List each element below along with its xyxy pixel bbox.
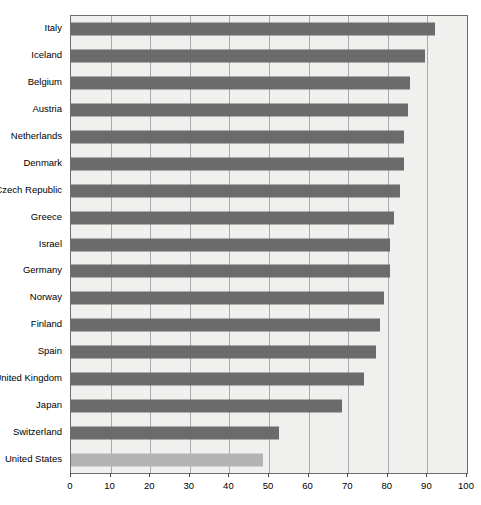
category-label: Iceland	[0, 50, 62, 60]
bar	[71, 265, 390, 278]
tick-label-100: 100	[446, 480, 481, 491]
category-label: United States	[0, 454, 62, 464]
value-axis: 0102030405060708090100	[70, 473, 468, 503]
category-label: Austria	[0, 104, 62, 114]
bar	[71, 50, 425, 63]
category-label: Netherlands	[0, 131, 62, 141]
category-label: United Kingdom	[0, 373, 62, 383]
bar	[71, 77, 410, 90]
bar	[71, 426, 279, 439]
bar	[71, 211, 394, 224]
tick-label-10: 10	[90, 480, 130, 491]
tick-mark-70	[347, 473, 348, 477]
bar	[71, 372, 364, 385]
bar	[71, 453, 263, 466]
tick-label-50: 50	[248, 480, 288, 491]
tick-label-80: 80	[367, 480, 407, 491]
bars-layer	[71, 16, 467, 473]
tick-label-0: 0	[50, 480, 90, 491]
category-axis: ItalyIcelandBelgiumAustriaNetherlandsDen…	[0, 15, 66, 472]
category-label: Czech Republic	[0, 185, 62, 195]
bar	[71, 23, 435, 36]
bar	[71, 104, 408, 117]
tick-mark-80	[387, 473, 388, 477]
bar	[71, 238, 390, 251]
category-label: Greece	[0, 212, 62, 222]
bar	[71, 319, 380, 332]
plot-area	[70, 15, 468, 474]
tick-label-30: 30	[169, 480, 209, 491]
tick-label-70: 70	[327, 480, 367, 491]
bar-chart: ItalyIcelandBelgiumAustriaNetherlandsDen…	[0, 0, 481, 505]
category-label: Spain	[0, 346, 62, 356]
category-label: Denmark	[0, 158, 62, 168]
tick-mark-100	[466, 473, 467, 477]
bar	[71, 184, 400, 197]
tick-mark-60	[308, 473, 309, 477]
category-label: Switzerland	[0, 427, 62, 437]
category-label: Japan	[0, 400, 62, 410]
tick-mark-50	[268, 473, 269, 477]
tick-label-20: 20	[129, 480, 169, 491]
category-label: Finland	[0, 319, 62, 329]
bar	[71, 346, 376, 359]
tick-label-40: 40	[208, 480, 248, 491]
category-label: Italy	[0, 23, 62, 33]
bar	[71, 157, 404, 170]
tick-mark-10	[110, 473, 111, 477]
category-label: Norway	[0, 292, 62, 302]
tick-mark-90	[426, 473, 427, 477]
bar	[71, 399, 342, 412]
tick-mark-30	[189, 473, 190, 477]
tick-mark-40	[228, 473, 229, 477]
bar	[71, 292, 384, 305]
tick-mark-0	[70, 473, 71, 477]
tick-label-60: 60	[288, 480, 328, 491]
category-label: Israel	[0, 239, 62, 249]
category-label: Belgium	[0, 77, 62, 87]
category-label: Germany	[0, 265, 62, 275]
tick-mark-20	[149, 473, 150, 477]
bar	[71, 130, 404, 143]
tick-label-90: 90	[406, 480, 446, 491]
